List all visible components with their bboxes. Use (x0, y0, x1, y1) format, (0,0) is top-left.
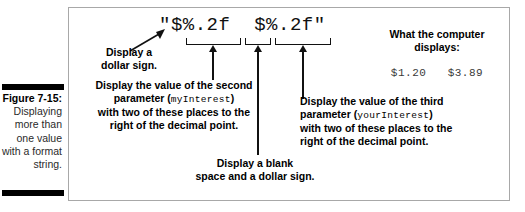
annotation-dollar-sign: Display a dollar sign. (95, 46, 163, 71)
annotation-second-parameter-line3: with two of these places to the (88, 106, 260, 119)
figure-caption-text: Displaying more than one value with a fo… (2, 105, 62, 170)
format-string-literal: "$%.2f $%.2f" (159, 14, 326, 36)
figure-caption: Figure 7-15: Displaying more than one va… (0, 92, 62, 171)
caption-rule-top (2, 84, 64, 90)
bracket-blank-space-dollar (245, 38, 271, 45)
computer-output-title-line1: What the computer (372, 28, 502, 41)
annotation-second-parameter-line4: right of the decimal point. (88, 119, 260, 132)
annotation-dollar-sign-line1: Display a (95, 46, 163, 59)
annotation-second-parameter-line2-suffix: ) (231, 92, 235, 104)
annotation-third-parameter-line3: with two of these places to the (300, 122, 472, 135)
computer-output-value: $1.20 $3.89 (372, 67, 502, 79)
annotation-blank-space-dollar-line1: Display a blank (175, 157, 335, 170)
leader-line-second-parameter (212, 51, 214, 80)
annotation-third-parameter: Display the value of the third parameter… (300, 95, 472, 147)
leader-line-third-parameter (302, 51, 304, 99)
annotation-third-parameter-line2-prefix: parameter ( (300, 108, 357, 120)
annotation-blank-space-dollar-line2: space and a dollar sign. (175, 170, 335, 183)
annotation-third-parameter-line1: Display the value of the third (300, 95, 472, 108)
annotation-second-parameter-code: myInterest (171, 94, 231, 105)
bracket-third-parameter (275, 38, 331, 45)
annotation-second-parameter-line2-prefix: parameter ( (114, 92, 171, 104)
computer-output-title: What the computer displays: (372, 28, 502, 53)
annotation-third-parameter-line2-suffix: ) (429, 108, 433, 120)
figure-caption-column: Figure 7-15: Displaying more than one va… (0, 0, 66, 212)
annotation-second-parameter-line2: parameter (myInterest) (88, 92, 260, 107)
annotation-second-parameter: Display the value of the second paramete… (88, 79, 260, 131)
figure-caption-label: Figure 7-15: (2, 92, 62, 104)
bracket-second-parameter (186, 38, 241, 45)
annotation-dollar-sign-line2: dollar sign. (95, 59, 163, 72)
annotation-third-parameter-line4: right of the decimal point. (300, 135, 472, 148)
computer-output-panel: What the computer displays: $1.20 $3.89 (372, 28, 502, 79)
caption-rule-bottom (2, 190, 64, 196)
annotation-second-parameter-line1: Display the value of the second (88, 79, 260, 92)
annotation-blank-space-dollar: Display a blank space and a dollar sign. (175, 157, 335, 182)
computer-output-title-line2: displays: (372, 41, 502, 54)
annotation-third-parameter-line2: parameter (yourInterest) (300, 108, 472, 123)
annotation-third-parameter-code: yourInterest (357, 110, 429, 121)
